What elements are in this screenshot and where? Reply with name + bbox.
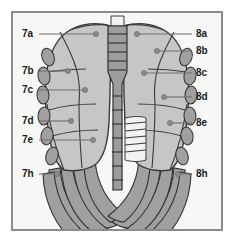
leader-dot-8h — [175, 171, 180, 176]
label-8e: 8e — [196, 117, 208, 128]
vertebra-top — [111, 16, 124, 26]
label-8h: 8h — [196, 168, 208, 179]
anatomy-illustration: 7a 7b 7c 7d 7e — [0, 0, 236, 248]
leader-dot-7a — [93, 31, 98, 36]
label-7h: 7h — [22, 168, 34, 179]
label-7a: 7a — [22, 28, 34, 39]
leader-dot-7e — [90, 137, 95, 142]
leader-dot-8e — [167, 120, 172, 125]
label-7e: 7e — [22, 134, 34, 145]
label-7b: 7b — [22, 65, 34, 76]
label-8a: 8a — [196, 28, 208, 39]
figure-root: 7a 7b 7c 7d 7e — [0, 0, 236, 248]
leader-dot-7b — [65, 68, 70, 73]
label-7c: 7c — [22, 84, 34, 95]
label-8b: 8b — [196, 45, 208, 56]
leader-dot-7d — [68, 118, 73, 123]
label-8c: 8c — [196, 67, 208, 78]
label-7d: 7d — [22, 115, 34, 126]
label-8d: 8d — [196, 91, 208, 102]
leader-dot-8a — [134, 31, 139, 36]
leader-dot-7h — [54, 171, 59, 176]
leader-dot-8c — [141, 70, 146, 75]
costal-cartilage — [125, 117, 146, 162]
leader-dot-7c — [82, 87, 87, 92]
leader-dot-8d — [161, 94, 166, 99]
leader-dot-8b — [154, 48, 159, 53]
